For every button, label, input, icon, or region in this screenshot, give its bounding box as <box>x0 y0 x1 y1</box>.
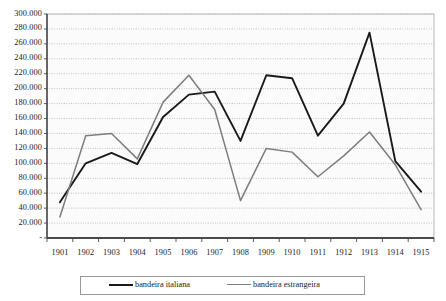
plot-background <box>47 14 434 238</box>
x-axis-tick-label: 1915 <box>406 248 436 257</box>
gridlines <box>47 14 434 238</box>
legend-label-italiana: bandeira italiana <box>135 280 190 289</box>
chart-legend: bandeira italiana bandeira estrangeira <box>80 276 365 295</box>
legend-swatch-estrangeira <box>227 284 251 285</box>
legend-item-bandeira-estrangeira: bandeira estrangeira <box>227 280 320 289</box>
line-chart: 300.000280.000260.000240.000220.000200.0… <box>0 0 446 301</box>
legend-item-bandeira-italiana: bandeira italiana <box>109 280 190 289</box>
legend-label-estrangeira: bandeira estrangeira <box>253 280 320 289</box>
legend-swatch-italiana <box>109 284 133 286</box>
